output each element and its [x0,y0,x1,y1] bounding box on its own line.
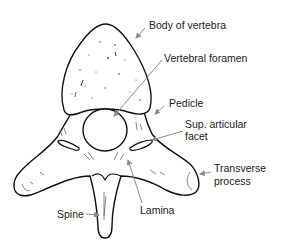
label-process: process [214,175,251,187]
leader-facet [152,131,183,140]
label-sup-articular: Sup. articular [185,118,247,130]
label-transverse: Transverse [214,162,266,174]
label-lamina: Lamina [140,204,174,216]
leader-transverse [200,172,211,174]
label-vertebral-foramen: Vertebral foramen [164,52,247,64]
label-facet: facet [185,130,208,142]
label-spine: Spine [57,208,84,220]
vertebra-diagram: Body of vertebra Vertebral foramen Pedic… [0,0,282,250]
label-body-of-vertebra: Body of vertebra [149,19,226,31]
leader-body [136,28,145,38]
label-pedicle: Pedicle [169,97,203,109]
vertebral-foramen-outline [83,109,127,151]
leader-pedicle [155,106,164,114]
vertebral-body-outline [62,24,151,115]
